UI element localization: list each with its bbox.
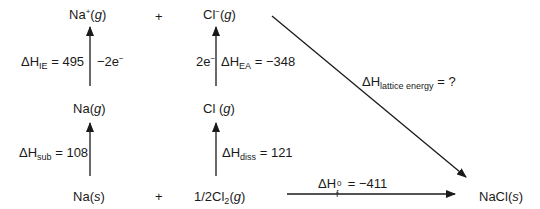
lattice-energy-label: ΔHlattice energy = ? (362, 75, 456, 91)
species-na-g: Na(g) (73, 102, 106, 115)
plus-sign-bottom: + (155, 190, 163, 203)
sublimation-label: ΔHsub = 108 (19, 146, 88, 162)
plus-sign-top: + (155, 10, 163, 23)
species-half-cl2-g: 1/2Cl2(g) (194, 190, 245, 206)
species-nacl-s: NaCl(s) (479, 190, 523, 203)
ionization-electron-label: −2e− (97, 55, 124, 68)
species-cl-g: Cl (g) (203, 102, 235, 115)
electron-affinity-electron-label: 2e− (196, 55, 215, 68)
species-na-s: Na(s) (73, 190, 105, 203)
species-na-plus-g: Na+(g) (69, 8, 106, 21)
species-cl-minus-g: Cl−(g) (203, 8, 236, 21)
ionization-label: ΔHIE = 495 (21, 55, 84, 71)
lattice-energy-arrow (272, 16, 466, 177)
formation-label: ΔH0f = −411 (318, 177, 387, 190)
dissociation-label: ΔHdiss = 121 (222, 146, 293, 162)
electron-affinity-label: ΔHEA = −348 (221, 55, 295, 71)
